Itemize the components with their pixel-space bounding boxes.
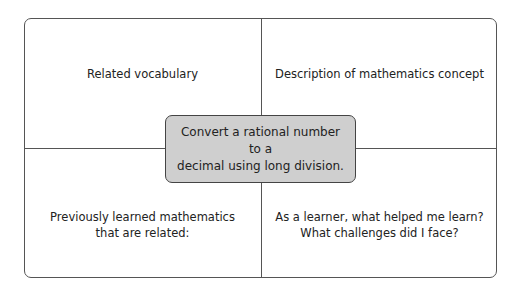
quadrant-label-line2: that are related: <box>96 225 190 241</box>
central-concept-line1: Convert a rational number to a <box>176 124 345 158</box>
quadrant-label-line1: As a learner, what helped me learn? <box>275 209 483 225</box>
quadrant-label: Related vocabulary <box>87 66 198 82</box>
central-concept-box: Convert a rational number to a decimal u… <box>165 115 356 183</box>
quadrant-label: Description of mathematics concept <box>275 66 484 82</box>
quadrant-label-line2: What challenges did I face? <box>300 225 458 241</box>
central-concept-line2: decimal using long division. <box>176 158 345 175</box>
quadrant-label-line1: Previously learned mathematics <box>50 209 235 225</box>
